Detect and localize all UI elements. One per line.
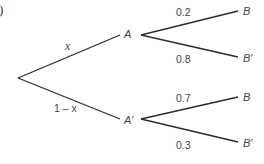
edge-label-A-B-prime: 0.8 (176, 53, 191, 65)
part-label: (a) (0, 3, 3, 17)
edge-label-x: x (64, 39, 71, 53)
node-B-from-A-prime: B (243, 91, 250, 103)
probability-tree-diagram: (a) x 1 – x A A′ 0.2 0.8 0.7 0.3 B B′ B … (0, 0, 264, 164)
edge-label-1-minus-x: 1 – x (54, 102, 78, 114)
node-B-prime-from-A-prime: B′ (243, 137, 253, 149)
edge-label-A-B: 0.2 (176, 6, 191, 18)
edge-label-A-prime-B-prime: 0.3 (176, 139, 191, 151)
node-A-prime: A′ (123, 114, 134, 126)
node-B-prime-from-A: B′ (243, 52, 253, 64)
node-B-from-A: B (243, 5, 250, 17)
node-A: A (123, 28, 131, 40)
edge-label-A-prime-B: 0.7 (176, 92, 191, 104)
